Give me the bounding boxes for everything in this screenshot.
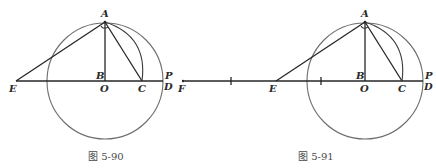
label-d: D <box>163 81 173 92</box>
geometry-diagrams: A B O C P D E 图 5-90 A B O C P D E F 图 5… <box>0 0 436 168</box>
figure-5-91: A B O C P D E F 图 5-91 <box>177 8 433 162</box>
label-a: A <box>360 8 369 19</box>
label-b: B <box>355 70 364 81</box>
label-c: C <box>398 83 406 94</box>
caption-5-91: 图 5-91 <box>298 151 334 162</box>
label-o: O <box>360 83 369 94</box>
label-e: E <box>268 83 277 94</box>
label-f: F <box>177 83 186 94</box>
segment-ea <box>16 22 105 81</box>
point-f <box>182 80 184 82</box>
label-d: D <box>423 81 433 92</box>
label-b: B <box>95 70 104 81</box>
label-e: E <box>8 83 17 94</box>
figure-5-90: A B O C P D E 图 5-90 <box>8 8 173 162</box>
caption-5-90: 图 5-90 <box>88 151 124 162</box>
point-a <box>364 21 367 24</box>
label-a: A <box>100 8 109 19</box>
label-p: P <box>424 70 433 81</box>
point-a <box>104 21 107 24</box>
segment-ea <box>276 22 365 81</box>
label-p: P <box>164 70 173 81</box>
label-c: C <box>138 83 146 94</box>
label-o: O <box>100 83 109 94</box>
